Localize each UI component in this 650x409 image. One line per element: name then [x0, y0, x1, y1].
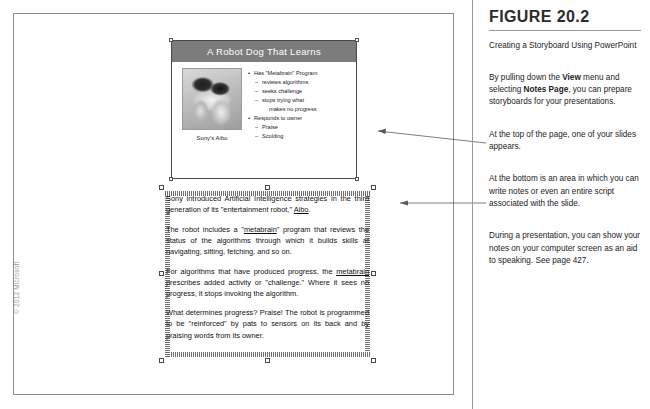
callout-view-menu: By pulling down the View menu and select… — [489, 72, 641, 109]
slide-image-caption: Sony's Aibo — [196, 135, 227, 141]
slide-bullet: Scolding — [248, 132, 352, 141]
slide-title: A Robot Dog That Learns — [172, 41, 356, 62]
callout-top-of-page: At the top of the page, one of your slid… — [489, 129, 641, 154]
slide-bullet: makes no progress — [248, 105, 352, 114]
resize-handle-middle-left[interactable] — [159, 271, 164, 276]
resize-handle[interactable] — [355, 38, 359, 42]
slide-bullet: Praise — [248, 123, 352, 132]
slide-image-column: Sony's Aibo — [172, 62, 246, 178]
notes-paragraph: Sony introduced Artificial Intelligence … — [166, 193, 369, 215]
callout-bottom-area: At the bottom is an area in which you ca… — [489, 173, 641, 210]
column-rule — [472, 0, 473, 409]
slide-bullet: stops trying what — [248, 96, 352, 105]
notes-text-content[interactable]: Sony introduced Artificial Intelligence … — [166, 193, 369, 355]
callout-bold-view: View — [562, 73, 581, 82]
copyright-notice: © 2012 Microsoft — [13, 214, 20, 314]
slide-bullet: seeks challenge — [248, 87, 352, 96]
resize-handle[interactable] — [169, 38, 173, 42]
resize-handle-top-left[interactable] — [159, 185, 164, 190]
callout-presentation-aid: During a presentation, you can show your… — [489, 230, 641, 267]
notes-paragraph: For algorithms that have produced progre… — [166, 266, 369, 299]
resize-handle[interactable] — [169, 177, 173, 181]
slide-bullet: reviews algorithms — [248, 78, 352, 87]
resize-handle-middle-right[interactable] — [371, 271, 376, 276]
resize-handle-top-center[interactable] — [265, 185, 270, 190]
slide-bullet: Has "Metabrain" Program — [248, 69, 352, 78]
resize-handle-top-right[interactable] — [371, 185, 376, 190]
notes-paragraph: The robot includes a "metabrain" program… — [166, 224, 369, 257]
callout-bold-notes-page: Notes Page — [524, 85, 569, 94]
resize-handle-bottom-right[interactable] — [371, 358, 376, 363]
notes-paragraph: What determines progress? Praise! The ro… — [166, 307, 369, 340]
notes-page-frame: A Robot Dog That Learns Sony's Aibo Has … — [13, 13, 454, 395]
slide-object[interactable]: A Robot Dog That Learns Sony's Aibo Has … — [171, 40, 357, 179]
figure-number: FIGURE 20.2 — [489, 8, 641, 26]
resize-handle-bottom-center[interactable] — [265, 358, 270, 363]
aibo-robot-dog-photo — [182, 68, 242, 130]
resize-handle[interactable] — [355, 177, 359, 181]
figure-screenshot: A Robot Dog That Learns Sony's Aibo Has … — [0, 0, 650, 409]
slide-canvas[interactable]: A Robot Dog That Learns Sony's Aibo Has … — [171, 40, 357, 179]
slide-bullet-list: Has "Metabrain" Program reviews algorith… — [246, 62, 356, 178]
notes-text-box[interactable]: Sony introduced Artificial Intelligence … — [160, 186, 375, 362]
callout-text-part: By pulling down the — [489, 73, 562, 82]
slide-bullet: Responds to owner — [248, 114, 352, 123]
slide-body: Sony's Aibo Has "Metabrain" Program revi… — [172, 62, 356, 178]
figure-divider — [489, 30, 641, 31]
resize-handle-bottom-left[interactable] — [159, 358, 164, 363]
figure-caption-column: FIGURE 20.2 Creating a Storyboard Using … — [489, 8, 641, 287]
figure-title: Creating a Storyboard Using PowerPoint — [489, 40, 641, 52]
